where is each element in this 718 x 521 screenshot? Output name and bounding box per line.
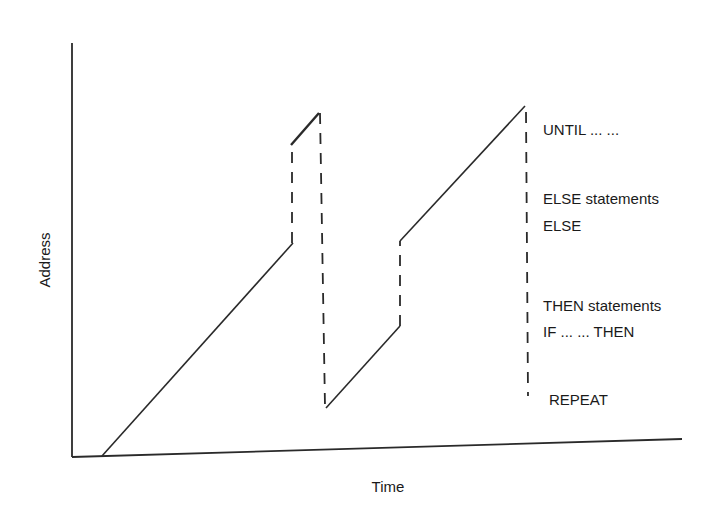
sequential-segment-repeat-to-if xyxy=(102,243,293,456)
label-until: UNTIL ... ... xyxy=(543,122,619,137)
y-axis-label: Address xyxy=(37,232,52,287)
sequential-segment-else-to-until xyxy=(400,106,525,241)
jump-dashed-2 xyxy=(320,113,325,407)
x-axis-label: Time xyxy=(372,479,405,494)
sequential-segment-repeat-to-if-2 xyxy=(326,326,400,408)
x-axis xyxy=(72,439,682,457)
address-time-diagram xyxy=(0,0,718,521)
label-then-statements: THEN statements xyxy=(543,298,661,313)
jump-dashed-4 xyxy=(526,112,528,396)
sequential-segment-short xyxy=(291,113,319,145)
label-if-then: IF ... ... THEN xyxy=(543,324,634,339)
label-else: ELSE xyxy=(543,218,581,233)
label-repeat: REPEAT xyxy=(549,392,608,407)
label-else-statements: ELSE statements xyxy=(543,191,659,206)
execution-trace xyxy=(102,106,528,456)
